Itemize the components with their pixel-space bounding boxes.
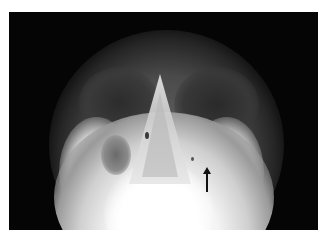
left-maxillary-cavity xyxy=(101,135,131,175)
air-spot xyxy=(145,132,149,139)
arrow-shaft xyxy=(206,172,208,192)
xray-image xyxy=(9,12,318,230)
arrow-annotation xyxy=(205,167,209,192)
air-spot xyxy=(191,157,194,161)
